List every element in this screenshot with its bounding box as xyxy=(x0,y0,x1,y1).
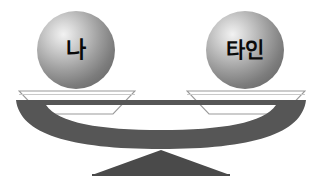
scale-beam xyxy=(16,96,306,152)
left-weight-label: 나 xyxy=(66,39,86,61)
fulcrum-triangle xyxy=(92,150,230,175)
left-weight-sphere: 나 xyxy=(37,11,115,89)
balance-scale-diagram: 나 타인 xyxy=(0,0,322,185)
scale-beam-shape xyxy=(16,100,306,149)
right-weight-label: 타인 xyxy=(226,40,264,61)
right-weight-sphere: 타인 xyxy=(206,11,284,89)
fulcrum xyxy=(92,150,230,176)
